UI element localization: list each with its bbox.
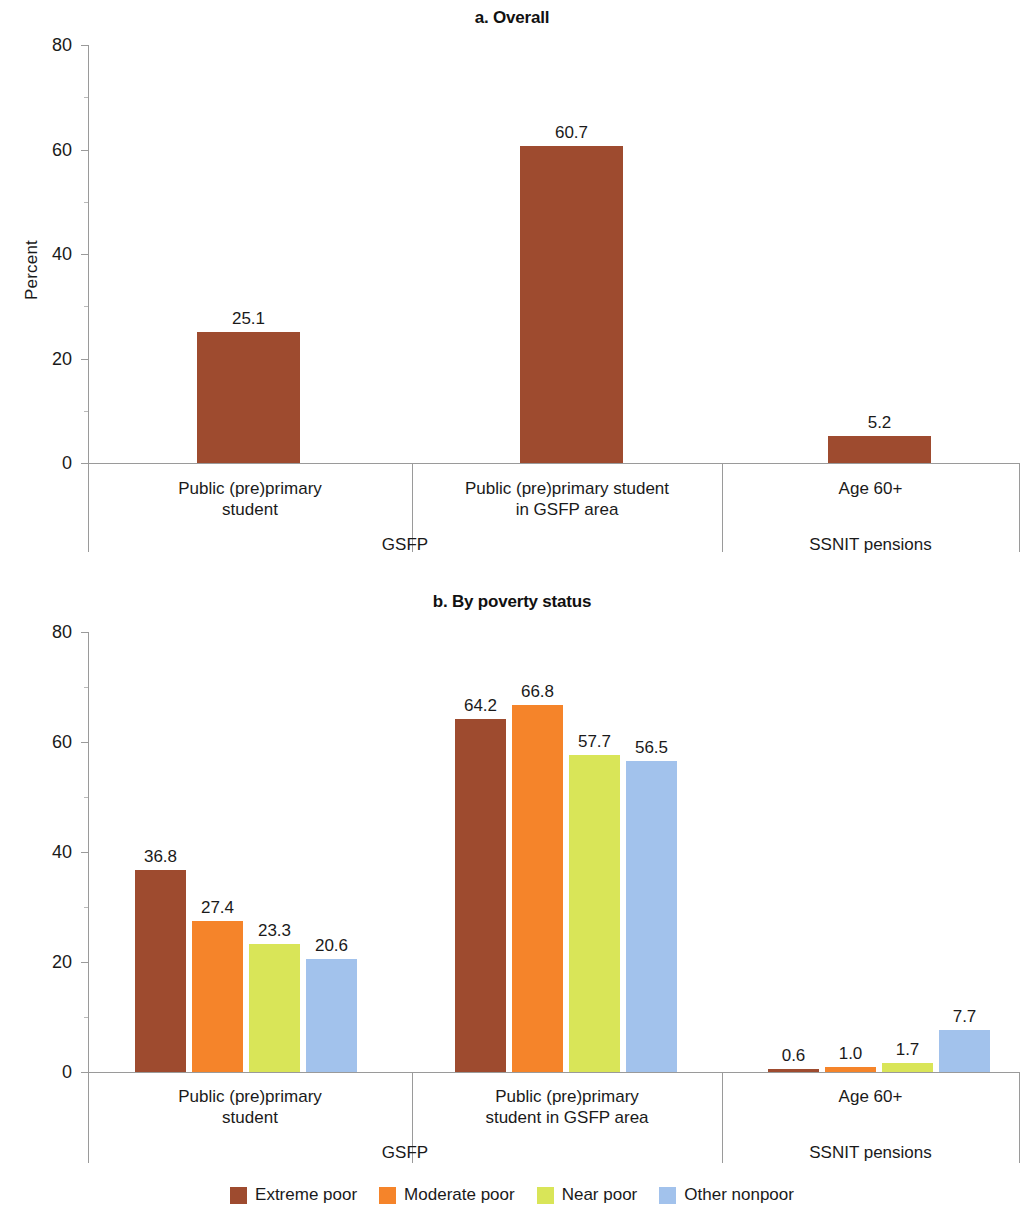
panel-b-tick-0: 0: [81, 1072, 88, 1073]
bar-panel-b-g3-moderate-poor: 1.0: [825, 1067, 876, 1073]
panel-b-tick-label-60: 60: [52, 732, 72, 753]
panel-b-category-label-3: Age 60+: [722, 1086, 1019, 1107]
bar-panel-b-g1-extreme-poor: 36.8: [135, 870, 186, 1072]
panel-a-y-axis: [88, 45, 89, 463]
panel-a-minor-tick-10: [84, 411, 88, 412]
panel-a-category-label-2-line-1: Public (pre)primary student: [412, 478, 722, 499]
panel-b-tick-label-40: 40: [52, 842, 72, 863]
bar-panel-b-g2-extreme-poor: 64.2: [455, 719, 506, 1072]
panel-b-category-label-2: Public (pre)primary student in GSFP area: [412, 1086, 722, 1129]
panel-a-separator-right: [1019, 464, 1020, 552]
bar-panel-b-g2-other-nonpoor: 56.5: [626, 761, 677, 1072]
figure: a. Overall Percent 80 60 40 20 0: [0, 0, 1024, 1211]
panel-b-category-label-1: Public (pre)primary student: [88, 1086, 412, 1129]
panel-b-group-label-ssnit: SSNIT pensions: [722, 1143, 1019, 1163]
panel-b-tick-label-80: 80: [52, 622, 72, 643]
panel-a-category-label-3: Age 60+: [722, 478, 1019, 499]
panel-a-tick-label-0: 0: [62, 453, 72, 474]
legend-label-moderate-poor: Moderate poor: [404, 1185, 515, 1205]
bar-value-panel-b-g1-3: 23.3: [258, 921, 291, 941]
panel-b-category-label-1-line-2: student: [88, 1107, 412, 1128]
bar-value-panel-b-g1-2: 27.4: [201, 898, 234, 918]
panel-a-tick-label-80: 80: [52, 35, 72, 56]
panel-b-group-label-gsfp: GSFP: [88, 1143, 722, 1163]
bar-value-panel-b-g2-2: 66.8: [521, 682, 554, 702]
panel-a-minor-tick-30: [84, 306, 88, 307]
panel-b-minor-tick-10: [84, 1017, 88, 1018]
panel-b-tick-60: 60: [81, 742, 88, 743]
legend-label-near-poor: Near poor: [562, 1185, 638, 1205]
legend-swatch-extreme-poor: [230, 1187, 247, 1204]
bar-panel-a-age-60-plus: 5.2: [828, 436, 931, 463]
panel-b-category-label-2-line-1: Public (pre)primary: [412, 1086, 722, 1107]
panel-a-tick-0: 0: [81, 463, 88, 464]
bar-panel-b-g3-extreme-poor: 0.6: [768, 1069, 819, 1072]
bar-value-panel-b-g3-3: 1.7: [896, 1040, 920, 1060]
bar-panel-b-g3-other-nonpoor: 7.7: [939, 1030, 990, 1072]
panel-b-separator-right: [1019, 1073, 1020, 1163]
panel-a-tick-20: 20: [81, 359, 88, 360]
bar-value-panel-b-g3-4: 7.7: [953, 1007, 977, 1027]
panel-a-tick-60: 60: [81, 150, 88, 151]
bar-panel-a-public-preprimary-student-gsfp-area: 60.7: [520, 146, 623, 463]
legend-label-extreme-poor: Extreme poor: [255, 1185, 357, 1205]
panel-a-group-label-ssnit: SSNIT pensions: [722, 535, 1019, 555]
panel-b-x-axis: [88, 1072, 1020, 1073]
bar-value-panel-b-g2-4: 56.5: [635, 738, 668, 758]
panel-b-tick-label-0: 0: [62, 1062, 72, 1083]
panel-a-tick-label-60: 60: [52, 139, 72, 160]
panel-b-minor-tick-70: [84, 687, 88, 688]
bar-panel-b-g2-near-poor: 57.7: [569, 755, 620, 1072]
panel-a-plot-area: 80 60 40 20 0 25.1 60.7: [88, 45, 1020, 463]
panel-b-tick-40: 40: [81, 852, 88, 853]
legend-item-extreme-poor: Extreme poor: [230, 1185, 357, 1205]
bar-panel-b-g1-near-poor: 23.3: [249, 944, 300, 1072]
legend-item-moderate-poor: Moderate poor: [379, 1185, 515, 1205]
panel-b-tick-20: 20: [81, 962, 88, 963]
panel-a-category-label-1-line-2: student: [88, 499, 412, 520]
panel-b-category-label-3-line-1: Age 60+: [722, 1086, 1019, 1107]
panel-b-category-label-1-line-1: Public (pre)primary: [88, 1086, 412, 1107]
panel-a-overall: a. Overall Percent 80 60 40 20 0: [0, 0, 1024, 580]
panel-a-category-label-1: Public (pre)primary student: [88, 478, 412, 521]
bar-value-panel-a-2: 60.7: [555, 123, 588, 143]
panel-a-group-label-gsfp: GSFP: [88, 535, 722, 555]
bar-value-panel-b-g2-3: 57.7: [578, 732, 611, 752]
bar-value-panel-b-g2-1: 64.2: [464, 696, 497, 716]
legend-swatch-other-nonpoor: [659, 1187, 676, 1204]
panel-b-tick-80: 80: [81, 632, 88, 633]
panel-b-minor-tick-50: [84, 797, 88, 798]
legend-item-other-nonpoor: Other nonpoor: [659, 1185, 794, 1205]
panel-b-plot-area: 80 60 40 20 0 36.8 27.4: [88, 632, 1020, 1072]
panel-a-tick-40: 40: [81, 254, 88, 255]
bar-value-panel-a-3: 5.2: [868, 413, 892, 433]
panel-b-tick-label-20: 20: [52, 952, 72, 973]
bar-panel-b-g1-moderate-poor: 27.4: [192, 921, 243, 1072]
panel-a-x-axis: [88, 463, 1020, 464]
panel-a-category-label-3-line-1: Age 60+: [722, 478, 1019, 499]
bar-panel-b-g2-moderate-poor: 66.8: [512, 705, 563, 1072]
panel-b-y-axis: [88, 632, 89, 1072]
legend: Extreme poor Moderate poor Near poor Oth…: [0, 1185, 1024, 1205]
panel-b-title: b. By poverty status: [0, 592, 1024, 612]
panel-a-tick-80: 80: [81, 45, 88, 46]
bar-panel-b-g3-near-poor: 1.7: [882, 1063, 933, 1072]
bar-panel-a-public-preprimary-student: 25.1: [197, 332, 300, 463]
bar-value-panel-b-g1-1: 36.8: [144, 847, 177, 867]
bar-value-panel-b-g3-2: 1.0: [839, 1044, 863, 1064]
bar-value-panel-b-g1-4: 20.6: [315, 936, 348, 956]
panel-a-tick-label-40: 40: [52, 244, 72, 265]
panel-a-title: a. Overall: [0, 8, 1024, 28]
legend-item-near-poor: Near poor: [537, 1185, 638, 1205]
panel-b-category-label-2-line-2: student in GSFP area: [412, 1107, 722, 1128]
bar-panel-b-g1-other-nonpoor: 20.6: [306, 959, 357, 1072]
legend-swatch-near-poor: [537, 1187, 554, 1204]
legend-label-other-nonpoor: Other nonpoor: [684, 1185, 794, 1205]
panel-a-tick-label-20: 20: [52, 348, 72, 369]
bar-value-panel-b-g3-1: 0.6: [782, 1046, 806, 1066]
panel-a-minor-tick-50: [84, 202, 88, 203]
panel-a-y-axis-label: Percent: [22, 240, 42, 300]
panel-a-category-label-2: Public (pre)primary student in GSFP area: [412, 478, 722, 521]
panel-a-category-label-1-line-1: Public (pre)primary: [88, 478, 412, 499]
panel-b-minor-tick-30: [84, 907, 88, 908]
